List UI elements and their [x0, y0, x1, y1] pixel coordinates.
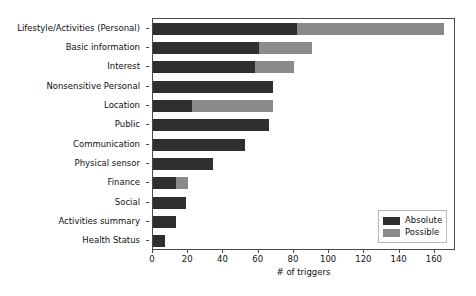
bar-row: [153, 235, 165, 247]
x-tick-label: 80: [288, 255, 299, 264]
bar-row: [153, 139, 245, 151]
y-tick-label: Physical sensor: [75, 159, 140, 168]
y-tick-mark: [146, 144, 149, 145]
x-tick-label: 60: [252, 255, 263, 264]
y-tick-label: Health Status: [82, 236, 140, 245]
bar-segment-absolute: [153, 216, 176, 228]
bar-segment-absolute: [153, 139, 245, 151]
bar-segment-absolute: [153, 61, 255, 73]
bar-row: [153, 42, 312, 54]
x-tick-mark: [293, 250, 294, 253]
bar-segment-possible: [176, 177, 188, 189]
chart-figure: Lifestyle/Activities (Personal)Basic inf…: [0, 0, 476, 296]
bar-segment-absolute: [153, 23, 297, 35]
y-tick-label: Public: [115, 120, 140, 129]
x-tick-label: 140: [391, 255, 407, 264]
y-tick-mark: [146, 240, 149, 241]
legend-item: Possible: [383, 227, 442, 238]
bar-row: [153, 216, 176, 228]
legend-label: Possible: [405, 228, 439, 237]
bar-row: [153, 100, 273, 112]
bar-segment-possible: [297, 23, 443, 35]
legend-swatch-possible: [383, 229, 400, 237]
y-tick-label: Activities summary: [58, 217, 140, 226]
x-tick-mark: [187, 250, 188, 253]
bar-row: [153, 81, 273, 93]
y-tick-mark: [146, 124, 149, 125]
x-tick-mark: [399, 250, 400, 253]
bar-segment-absolute: [153, 42, 259, 54]
y-tick-label: Nonsensitive Personal: [46, 81, 140, 90]
bar-row: [153, 119, 269, 131]
x-tick-label: 20: [182, 255, 193, 264]
x-tick-mark: [328, 250, 329, 253]
y-tick-label: Communication: [73, 139, 140, 148]
bar-segment-absolute: [153, 235, 165, 247]
y-tick-label: Social: [115, 197, 140, 206]
legend-label: Absolute: [405, 216, 442, 225]
legend-item: Absolute: [383, 215, 442, 226]
x-tick-mark: [222, 250, 223, 253]
y-tick-label: Basic information: [66, 43, 140, 52]
x-tick-mark: [152, 250, 153, 253]
x-tick-label: 160: [426, 255, 442, 264]
x-tick-label: 40: [217, 255, 228, 264]
x-tick-mark: [258, 250, 259, 253]
x-tick-label: 120: [355, 255, 371, 264]
y-tick-mark: [146, 47, 149, 48]
x-tick-label: 0: [149, 255, 154, 264]
bar-segment-possible: [192, 100, 273, 112]
y-axis-labels: Lifestyle/Activities (Personal)Basic inf…: [0, 18, 146, 250]
bar-segment-absolute: [153, 158, 213, 170]
legend-swatch-absolute: [383, 217, 400, 225]
bar-row: [153, 23, 444, 35]
y-tick-mark: [146, 105, 149, 106]
x-axis-title: # of triggers: [152, 268, 455, 277]
chart-legend: AbsolutePossible: [378, 210, 447, 243]
y-tick-label: Finance: [107, 178, 140, 187]
y-tick-mark: [146, 182, 149, 183]
bar-segment-absolute: [153, 81, 273, 93]
bar-segment-absolute: [153, 119, 269, 131]
x-tick-mark: [434, 250, 435, 253]
y-tick-mark: [146, 66, 149, 67]
bar-row: [153, 61, 294, 73]
y-tick-mark: [146, 202, 149, 203]
y-tick-mark: [146, 221, 149, 222]
bar-row: [153, 177, 188, 189]
y-tick-label: Location: [104, 101, 140, 110]
bar-row: [153, 197, 186, 209]
bar-segment-absolute: [153, 100, 192, 112]
y-tick-label: Lifestyle/Activities (Personal): [17, 23, 140, 32]
bar-segment-absolute: [153, 177, 176, 189]
x-tick-mark: [363, 250, 364, 253]
y-tick-mark: [146, 28, 149, 29]
bar-segment-absolute: [153, 197, 186, 209]
bar-segment-possible: [255, 61, 294, 73]
bar-row: [153, 158, 213, 170]
y-tick-mark: [146, 86, 149, 87]
y-tick-mark: [146, 163, 149, 164]
y-tick-label: Interest: [107, 62, 140, 71]
bar-segment-possible: [259, 42, 312, 54]
x-tick-label: 100: [320, 255, 336, 264]
